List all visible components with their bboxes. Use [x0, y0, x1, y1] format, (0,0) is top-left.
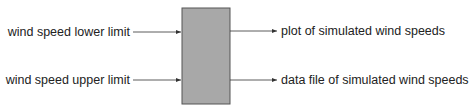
diagram-canvas: [0, 0, 472, 108]
input-label-upper-limit: wind speed upper limit: [6, 73, 130, 87]
process-box: [182, 8, 230, 104]
input-label-lower-limit: wind speed lower limit: [8, 25, 130, 39]
output-label-data-file: data file of simulated wind speeds: [281, 73, 469, 87]
output-label-plot: plot of simulated wind speeds: [281, 24, 445, 38]
